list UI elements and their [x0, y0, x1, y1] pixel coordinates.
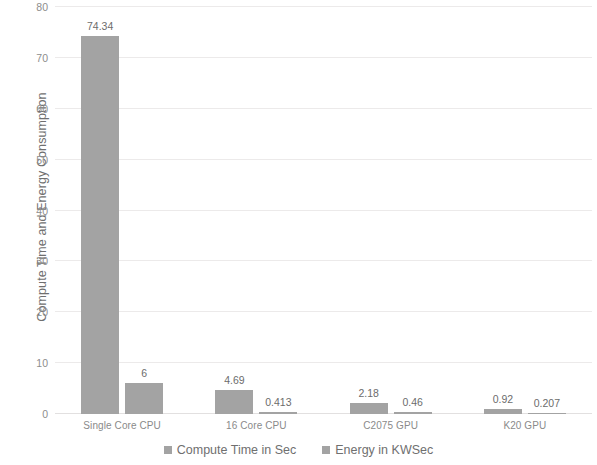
bar-value-label: 74.34: [87, 20, 113, 32]
y-axis-tick-label: 60: [8, 103, 48, 115]
legend-item[interactable]: Compute Time in Sec: [164, 443, 297, 457]
y-axis-tick-label: 40: [8, 205, 48, 217]
bar-chart: Compute Time and Energy Consumption 0102…: [0, 0, 597, 465]
bar: [350, 403, 388, 414]
x-axis-category-label: Single Core CPU: [83, 420, 161, 431]
bar-value-label: 2.18: [358, 387, 378, 399]
bar: [484, 409, 522, 414]
bar: [259, 412, 297, 414]
legend-item[interactable]: Energy in KWSec: [322, 443, 433, 457]
gridline: [55, 210, 592, 211]
legend-swatch-icon: [322, 446, 330, 454]
legend-swatch-icon: [164, 446, 172, 454]
gridline: [55, 362, 592, 363]
bar-value-label: 4.69: [224, 374, 244, 386]
gridline: [55, 57, 592, 58]
y-axis-tick-label: 10: [8, 357, 48, 369]
y-axis-tick-label: 30: [8, 255, 48, 267]
bar: [528, 413, 566, 415]
bar-value-label: 0.413: [265, 396, 291, 408]
bar-value-label: 0.207: [534, 397, 560, 409]
bar: [215, 390, 253, 414]
legend-label: Energy in KWSec: [335, 443, 433, 457]
chart-legend: Compute Time in SecEnergy in KWSec: [0, 443, 597, 457]
bar: [125, 383, 163, 414]
bar-value-label: 0.46: [402, 396, 422, 408]
gridline: [55, 6, 592, 7]
legend-label: Compute Time in Sec: [177, 443, 297, 457]
y-axis-tick-label: 70: [8, 52, 48, 64]
gridline: [55, 260, 592, 261]
bar: [81, 36, 119, 414]
x-axis-category-label: 16 Core CPU: [226, 420, 287, 431]
gridline: [55, 159, 592, 160]
bar-value-label: 0.92: [493, 393, 513, 405]
x-axis-category-label: C2075 GPU: [363, 420, 418, 431]
y-axis-tick-label: 50: [8, 154, 48, 166]
gridline: [55, 311, 592, 312]
y-axis-tick-label: 0: [8, 408, 48, 420]
y-axis-tick-label: 80: [8, 1, 48, 13]
plot-area: [55, 7, 592, 414]
y-axis-tick-label: 20: [8, 306, 48, 318]
x-axis-category-label: K20 GPU: [503, 420, 546, 431]
gridline: [55, 108, 592, 109]
bar-value-label: 6: [141, 367, 147, 379]
bar: [394, 412, 432, 414]
